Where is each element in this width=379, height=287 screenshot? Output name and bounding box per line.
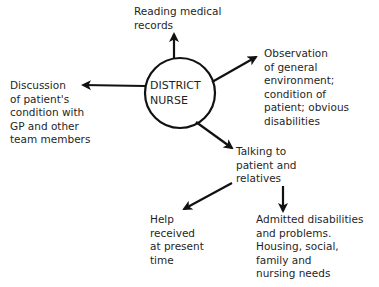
node-admitted-disabilities: Admitted disabilities and problems. Hous…: [256, 213, 363, 281]
node-reading-medical-records: Reading medical records: [134, 5, 221, 32]
node-help-received: Help received at present time: [150, 213, 204, 267]
arrow-to-observation: [212, 57, 256, 82]
arrow-to-discussion: [83, 85, 145, 86]
node-talking: Talking to patient and relatives: [236, 145, 296, 186]
node-observation: Observation of general environment; cond…: [264, 47, 349, 129]
arrow-to-talking: [196, 122, 232, 148]
arrow-to-help: [184, 183, 232, 209]
district-nurse-label: DISTRICT NURSE: [150, 78, 201, 108]
node-discussion: Discussion of patient's condition with G…: [10, 79, 90, 147]
